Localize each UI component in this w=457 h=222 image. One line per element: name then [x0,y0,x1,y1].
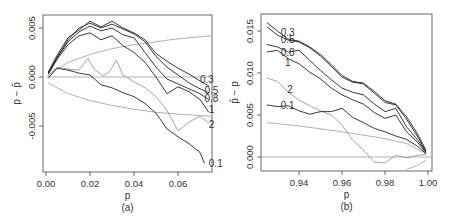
x-tick-label: 0.96 [333,177,352,188]
x-tick-label: 0.04 [125,178,144,189]
series-label: 1 [209,104,215,115]
y-tick-label: 0.005 [26,16,37,40]
series-label: 0.1 [281,100,295,111]
x-axis-label: p [125,190,131,201]
x-tick-label: 0.02 [81,178,100,189]
series-label: 0.3 [200,74,214,85]
y-tick-label: 0.005 [244,103,255,127]
x-tick-label: 0.00 [37,178,56,189]
x-tick-label: 0.06 [169,178,188,189]
series-label: 2 [287,84,293,95]
series-label: 0.8 [204,93,218,104]
y-axis-label: p − p̂ [11,82,22,105]
series-line-0_1 [267,105,426,154]
y-tick-label: 0.010 [244,61,255,85]
panel-b: 0.30.50.8120.10.940.960.981.000.0000.005… [229,14,437,212]
series-line-0_3 [48,21,209,86]
series-label: 2 [209,119,215,130]
y-tick-label: 0.000 [244,145,255,169]
reference-line-upper-bound [48,36,211,75]
series-line-0_1 [48,68,204,163]
reference-line-lower-bound [407,160,426,169]
series-line-0_8 [48,26,209,100]
series-label: 0.8 [281,47,295,58]
y-tick-label: 0.000 [26,65,37,89]
x-tick-label: 0.98 [376,177,395,188]
panel-caption: (b) [340,201,352,212]
series-label: 0.5 [281,34,295,45]
x-tick-label: 1.00 [419,177,438,188]
series-label: 1 [285,57,291,68]
y-axis-label: p̂ − p [229,81,240,104]
y-tick-label: 0.015 [244,19,255,43]
series-line-1 [48,33,209,112]
series-label: 0.1 [209,158,223,169]
x-tick-label: 0.94 [290,177,309,188]
series-line-0_8 [267,44,426,152]
y-tick-label: -0.005 [26,113,37,140]
x-axis-label: p [344,189,350,200]
panel-caption: (a) [121,202,133,213]
panel-a: 0.30.50.8120.10.000.020.040.06-0.0050.00… [11,15,223,213]
figure: 0.30.50.8120.10.000.020.040.06-0.0050.00… [0,0,457,222]
series-line-0_5 [48,23,209,93]
